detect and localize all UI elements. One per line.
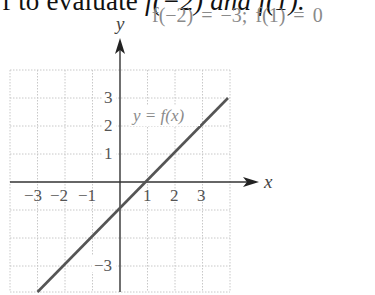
- axes: [10, 48, 250, 292]
- y-tick: 1: [104, 144, 113, 163]
- x-axis-label: x: [263, 171, 273, 192]
- function-graph: y x −3 −2 −1 1 2 3 3 2 1 −3 y = f(x): [0, 0, 375, 295]
- function-label: y = f(x): [131, 106, 184, 125]
- x-tick: −1: [78, 186, 96, 205]
- x-tick-labels: −3 −2 −1 1 2 3: [24, 186, 206, 205]
- y-tick: −3: [94, 256, 112, 275]
- y-tick: 3: [104, 88, 113, 107]
- y-axis-label: y: [114, 13, 125, 34]
- x-tick: −3: [24, 186, 42, 205]
- x-tick: 2: [170, 186, 179, 205]
- x-tick: −2: [50, 186, 68, 205]
- y-tick: 2: [104, 116, 113, 135]
- x-tick: 3: [197, 186, 206, 205]
- x-tick: 1: [143, 186, 152, 205]
